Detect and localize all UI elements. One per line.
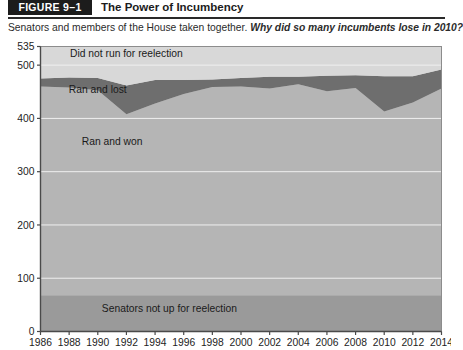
area-ran-and-won	[41, 84, 442, 295]
x-tick-label: 1986	[29, 337, 52, 348]
x-tick-label: 1988	[58, 337, 81, 348]
figure-header: FIGURE 9–1 The Power of Incumbency	[0, 0, 451, 17]
x-tick-label: 2012	[401, 337, 424, 348]
header-divider	[8, 17, 445, 19]
figure-subtitle: Senators and members of the House taken …	[8, 22, 448, 36]
x-tick-label: 2008	[344, 337, 367, 348]
x-tick-label: 1996	[172, 337, 195, 348]
series-label: Ran and won	[82, 136, 143, 147]
x-tick-label: 2010	[373, 337, 396, 348]
y-tick-label: 535	[17, 41, 34, 52]
y-tick-label: 0	[29, 326, 35, 337]
series-label: Senators not up for reelection	[102, 303, 237, 314]
series-label: Ran and lost	[69, 84, 127, 95]
y-tick-label: 100	[17, 273, 34, 284]
incumbency-area-chart: 0100200300400500535 19861988199019921994…	[0, 40, 451, 350]
x-tick-label: 2014	[430, 337, 451, 348]
subtitle-question: Why did so many incumbents lose in 2010?	[250, 22, 463, 33]
x-tick-label: 2000	[230, 337, 253, 348]
figure-title: The Power of Incumbency	[101, 0, 244, 15]
chart-svg: 0100200300400500535 19861988199019921994…	[0, 40, 451, 350]
y-tick-label: 200	[17, 220, 34, 231]
y-tick-label: 500	[17, 60, 34, 71]
subtitle-description: Senators and members of the House taken …	[8, 22, 247, 33]
x-tick-label: 2006	[315, 337, 338, 348]
y-tick-label: 400	[17, 113, 34, 124]
x-tick-label: 1998	[201, 337, 224, 348]
x-tick-label: 1990	[86, 337, 109, 348]
x-tick-label: 1994	[144, 337, 167, 348]
x-axis-tick-labels: 1986198819901992199419961998200020022004…	[29, 337, 451, 348]
y-tick-label: 300	[17, 166, 34, 177]
y-axis-tick-labels: 0100200300400500535	[17, 41, 34, 337]
area-senators-not-up-for-reelection	[41, 295, 442, 331]
series-label: Did not run for reelection	[70, 48, 183, 59]
x-tick-label: 2002	[258, 337, 281, 348]
figure-number-badge: FIGURE 9–1	[8, 0, 92, 15]
x-tick-label: 1992	[115, 337, 138, 348]
x-tick-label: 2004	[287, 337, 310, 348]
